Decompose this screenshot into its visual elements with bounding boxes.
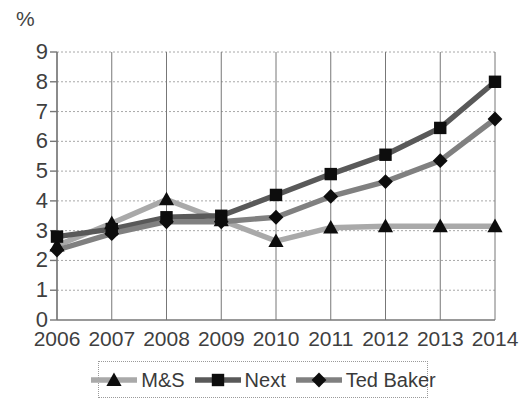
chart-canvas <box>57 52 495 320</box>
y-axis-tick-label: 8 <box>26 71 48 93</box>
x-axis-tick-label: 2007 <box>81 327 143 351</box>
data-point-marker-square <box>51 230 63 242</box>
data-point-marker-square <box>270 189 282 201</box>
y-axis-tick-label: 6 <box>26 130 48 152</box>
x-axis-tick-label: 2014 <box>464 327 523 351</box>
y-axis-tick-label: 2 <box>26 249 48 271</box>
y-axis-tick-label: 3 <box>26 220 48 242</box>
data-point-marker-diamond <box>378 174 393 189</box>
x-axis-tick-label: 2013 <box>409 327 471 351</box>
y-axis-tick-label: 5 <box>26 160 48 182</box>
data-point-marker-diamond <box>323 189 338 204</box>
legend-key-square-icon <box>194 370 242 390</box>
legend-item[interactable]: Next <box>194 370 286 390</box>
legend-item-label: Ted Baker <box>346 370 436 390</box>
gridlines <box>57 52 495 320</box>
data-point-marker-square <box>325 168 337 180</box>
y-axis-tick-label: 1 <box>26 279 48 301</box>
legend-item[interactable]: M&S <box>90 370 184 390</box>
x-axis-tick-label: 2010 <box>245 327 307 351</box>
data-point-marker-square <box>211 373 223 385</box>
x-axis-tick-label: 2012 <box>355 327 417 351</box>
legend-key-diamond-icon <box>295 370 343 390</box>
plot-area <box>57 52 495 320</box>
chart-legend: M&SNextTed Baker <box>98 361 428 398</box>
y-axis-tick-labels: 0123456789 <box>18 52 48 320</box>
y-axis-tick-label: 7 <box>26 101 48 123</box>
y-axis-unit-label: % <box>16 8 35 29</box>
x-axis-tick-label: 2009 <box>190 327 252 351</box>
x-axis-tick-label: 2008 <box>136 327 198 351</box>
y-axis-tick-label: 4 <box>26 190 48 212</box>
legend-item-label: Next <box>245 370 286 390</box>
data-point-marker-diamond <box>269 210 284 225</box>
x-axis-tick-labels: 200620072008200920102011201220132014 <box>57 327 495 355</box>
x-axis-tick-label: 2006 <box>26 327 88 351</box>
data-point-marker-square <box>379 149 391 161</box>
legend-key-triangle-icon <box>90 370 138 390</box>
axis-lines <box>50 52 495 320</box>
data-point-marker-diamond <box>311 372 326 387</box>
y-axis-tick-label: 9 <box>26 41 48 63</box>
legend-item[interactable]: Ted Baker <box>295 370 436 390</box>
legend-item-label: M&S <box>141 370 184 390</box>
x-axis-tick-label: 2011 <box>300 327 362 351</box>
data-point-marker-square <box>489 76 501 88</box>
data-point-marker-square <box>434 122 446 134</box>
